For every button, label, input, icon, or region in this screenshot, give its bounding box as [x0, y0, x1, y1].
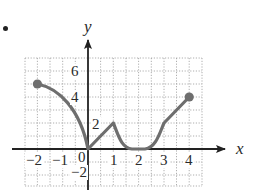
x-axis-label: x — [236, 140, 244, 157]
x-tick-0: 0 — [77, 150, 87, 165]
y-tick-4: 4 — [70, 90, 80, 105]
y-tick-6: 6 — [70, 64, 80, 79]
x-tick-neg1: −1 — [51, 153, 69, 168]
y-tick-2: 2 — [91, 117, 101, 132]
endpoint-left — [33, 79, 42, 88]
y-axis-label: y — [84, 18, 92, 35]
y-tick-neg2: −2 — [70, 165, 88, 180]
x-tick-3: 3 — [159, 153, 169, 168]
x-tick-neg2: −2 — [25, 153, 43, 168]
x-tick-2: 2 — [134, 153, 144, 168]
problem-bullet — [3, 26, 8, 31]
x-tick-1: 1 — [109, 153, 119, 168]
x-tick-4: 4 — [184, 153, 194, 168]
endpoint-right — [185, 92, 194, 101]
